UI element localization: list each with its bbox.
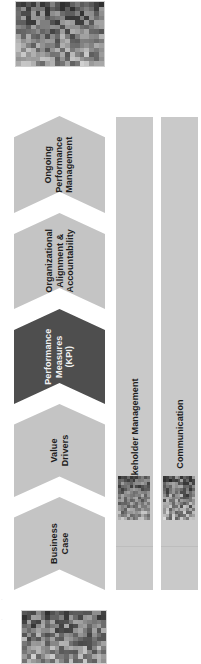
diagram-canvas: Ongoing Performance Management Organizat… xyxy=(0,0,201,664)
support-lane-label: Stakeholder Management xyxy=(130,378,140,489)
process-step-label: Business Case xyxy=(49,523,70,564)
photo-lane-communication-image xyxy=(163,476,195,520)
photo-lane-stakeholder-image xyxy=(118,476,150,520)
process-step-label: Ongoing Performance Management xyxy=(44,136,76,192)
process-step-ongoing-performance-mgmt[interactable]: Ongoing Performance Management xyxy=(14,116,105,213)
process-step-label: Organizational Alignment & Accountabilit… xyxy=(44,229,76,293)
scan-artifact-mark: · xyxy=(1,616,3,622)
photo-bottom-image xyxy=(21,610,107,664)
lane-divider xyxy=(116,546,153,547)
process-step-value-drivers[interactable]: Value Drivers xyxy=(14,404,105,497)
process-step-business-case[interactable]: Business Case xyxy=(14,497,105,590)
process-step-organizational-alignment[interactable]: Organizational Alignment & Accountabilit… xyxy=(14,213,105,309)
process-step-label: Value Drivers xyxy=(49,435,70,467)
support-lane-label: Communication xyxy=(175,399,185,468)
process-step-performance-measures-kpi[interactable]: Performance Measures (KPI) xyxy=(14,309,105,404)
scan-artifact-mark: · xyxy=(1,596,3,602)
photo-top-image xyxy=(15,1,105,67)
lane-divider xyxy=(161,546,198,547)
process-step-label: Performance Measures (KPI) xyxy=(44,328,76,384)
